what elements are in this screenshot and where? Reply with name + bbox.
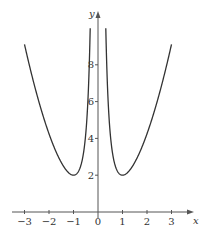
- curve-left-branch: [25, 28, 91, 175]
- x-tick-label: −2: [42, 216, 57, 227]
- x-tick-label: 3: [168, 216, 174, 227]
- y-axis-label: y: [88, 8, 95, 19]
- x-axis-arrow-icon: [187, 210, 194, 215]
- function-plot: −3−2−101232468xy: [0, 0, 202, 236]
- y-tick-label: 2: [88, 170, 94, 181]
- x-tick-label: −1: [66, 216, 81, 227]
- x-tick-label: 0: [95, 216, 101, 227]
- curve-right-branch: [106, 28, 172, 175]
- x-tick-label: −3: [17, 216, 32, 227]
- y-tick-label: 4: [88, 133, 94, 144]
- x-tick-label: 2: [144, 216, 150, 227]
- plot-canvas: −3−2−101232468xy: [0, 0, 202, 236]
- y-axis-arrow-icon: [96, 11, 101, 18]
- x-axis-label: x: [193, 215, 199, 226]
- x-tick-label: 1: [119, 216, 125, 227]
